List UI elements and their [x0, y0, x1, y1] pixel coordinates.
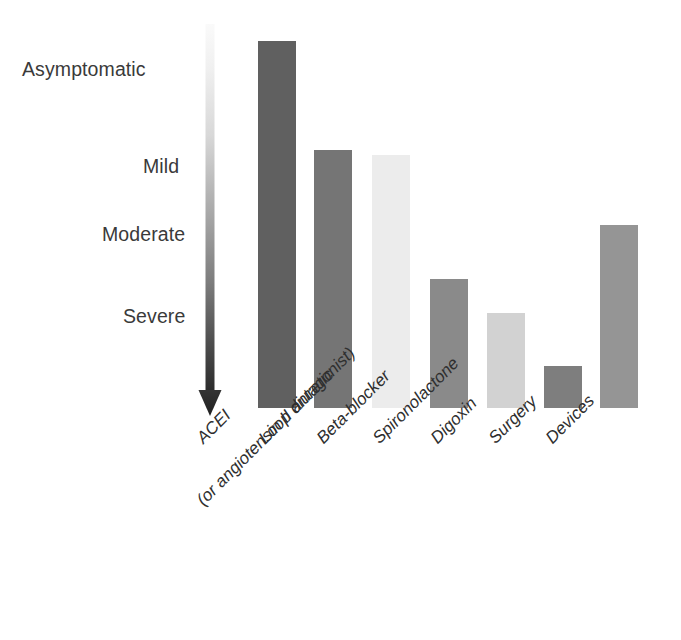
bars-layer [0, 0, 681, 640]
bar-digoxin [487, 313, 525, 408]
bar-devices [600, 225, 638, 408]
clipped-caption [0, 632, 681, 640]
heart-failure-therapy-figure: Asymptomatic Mild Moderate Severe [0, 0, 681, 640]
bar-acei [258, 41, 296, 408]
